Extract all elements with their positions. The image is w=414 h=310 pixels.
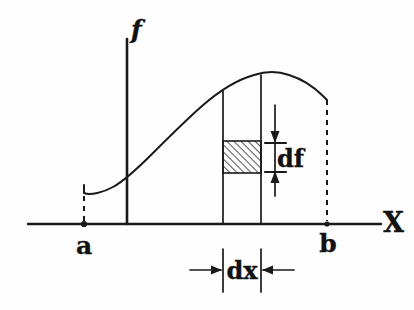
y-axis-label: f (129, 15, 146, 44)
figure-canvas: f X a b df dx (0, 0, 414, 310)
upper-limit-label: b (319, 229, 336, 258)
dx-label: dx (226, 256, 258, 285)
df-label: df (277, 144, 306, 173)
point-dot-b (324, 221, 329, 226)
function-curve (84, 72, 327, 194)
lower-limit-label: a (76, 231, 92, 260)
dx-arrow-right-icon (211, 266, 222, 275)
figure-container: f X a b df dx (0, 0, 414, 310)
x-axis-label: X (383, 207, 404, 238)
point-dot-a (81, 221, 87, 227)
hatched-area-element (223, 141, 261, 173)
df-arrow-down-icon (271, 131, 280, 143)
dx-arrow-left-icon (262, 266, 273, 275)
